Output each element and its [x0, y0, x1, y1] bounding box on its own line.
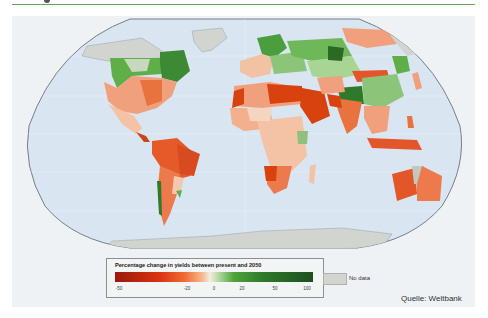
libya-egypt [267, 84, 302, 104]
legend-tick: -50 [116, 286, 123, 291]
legend-tick: 100 [303, 286, 311, 291]
header-rule [12, 4, 475, 5]
header-mark [44, 0, 50, 3]
kazakhstan-dark [328, 46, 344, 61]
legend-tick: -20 [184, 286, 191, 291]
namibia [264, 166, 277, 181]
iran-afghan [317, 76, 345, 94]
legend-tick: 0 [213, 286, 216, 291]
color-scale-bar [115, 272, 313, 282]
sahel [247, 108, 272, 121]
east-africa [297, 131, 308, 144]
legend-tick: 20 [239, 286, 244, 291]
legend-title: Percentage change in yields between pres… [115, 262, 261, 268]
legend-tick: 50 [272, 286, 277, 291]
nodata-label: No data [349, 275, 370, 281]
legend: Percentage change in yields between pres… [106, 258, 324, 298]
nodata-swatch [323, 273, 347, 285]
source-credit: Quelle: Weltbank [401, 294, 462, 303]
